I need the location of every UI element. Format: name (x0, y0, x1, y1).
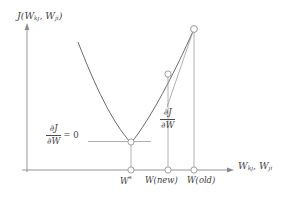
y-axis-title-end: ) (59, 10, 63, 21)
y-axis-title: J(Wkj, Wji) (17, 11, 62, 22)
tick-label-w-star-text: W (120, 176, 129, 186)
axis-marker-w-old (191, 167, 197, 173)
gradient-zero-annotation: ∂J ∂W = 0 (46, 124, 79, 146)
x-axis-title-sub-ji: ji (269, 165, 273, 171)
curve-marker-w-old (191, 26, 198, 33)
axis-marker-w-new (165, 167, 171, 173)
gradient-slope-denominator: ∂W (160, 120, 175, 130)
x-axis-title-mid: , W (253, 160, 269, 171)
tick-label-w-new: W(new) (145, 175, 178, 185)
gradient-slope-annotation: ∂J ∂W (160, 108, 175, 130)
tick-label-w-star: W* (120, 175, 132, 186)
gradient-slope-numerator: ∂J (160, 108, 175, 118)
y-axis-title-mid: , W (39, 10, 55, 21)
tick-label-w-star-superscript: * (129, 175, 132, 183)
gradient-zero-equals: = 0 (63, 131, 78, 140)
curve-marker-w-new (165, 71, 171, 77)
gradient-descent-figure: J(Wkj, Wji) Wkj, Wji ∂J ∂W = 0 ∂J ∂W W* … (0, 0, 284, 198)
gradient-zero-denominator: ∂W (46, 136, 61, 146)
y-axis-arrowhead (25, 23, 30, 30)
gradient-zero-fraction: ∂J ∂W (46, 124, 61, 146)
x-axis-title: Wkj, Wji (238, 161, 272, 172)
axis-marker-w-star (128, 167, 134, 173)
y-axis-title-main: J(W (17, 10, 34, 21)
tick-label-w-old: W(old) (187, 175, 215, 185)
x-axis-arrowhead (227, 168, 234, 173)
steep-tangent-line (167, 31, 193, 107)
gradient-zero-numerator: ∂J (46, 124, 61, 134)
curve-marker-minimum (128, 139, 134, 145)
cost-curve (78, 29, 194, 143)
x-axis-title-main: W (238, 160, 248, 171)
gradient-slope-fraction: ∂J ∂W (160, 108, 175, 130)
